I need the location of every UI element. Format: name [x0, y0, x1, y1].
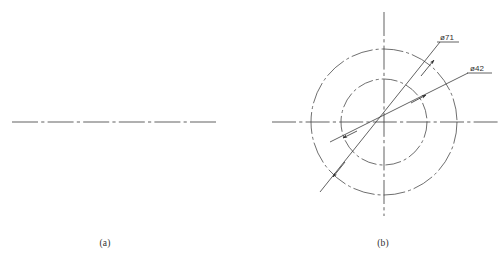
panel-a-group: (a) — [12, 122, 216, 249]
panel-b-caption: (b) — [377, 238, 389, 249]
panel-b-group: ø71 ø42 (b) — [272, 12, 500, 249]
dimension-42-arrow-far — [411, 95, 426, 103]
dimension-diameter-42: ø42 — [330, 64, 492, 142]
dimension-71-arrow-far — [421, 60, 434, 76]
panel-a-caption: (a) — [99, 238, 110, 249]
dimension-42-label: ø42 — [470, 64, 485, 73]
drawing-sheet: (a) ø71 — [0, 0, 503, 263]
figure-canvas: (a) ø71 — [0, 0, 503, 263]
dimension-42-line — [330, 73, 468, 142]
dimension-71-label: ø71 — [440, 33, 455, 42]
dimension-71-arrow-near — [333, 162, 345, 177]
